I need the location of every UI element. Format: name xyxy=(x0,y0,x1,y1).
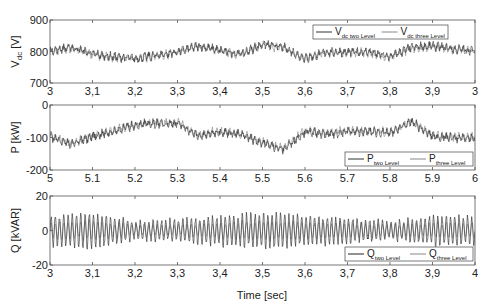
x-tick-label: 3,1 xyxy=(85,267,100,279)
legend: Ptwo LevelPthree Level xyxy=(345,152,473,166)
y-tick-label: 900 xyxy=(30,14,48,26)
y-axis-label: Vdc [V] xyxy=(9,35,24,67)
x-tick-label: 3,9 xyxy=(425,267,440,279)
y-tick-label: 0 xyxy=(42,225,48,237)
x-tick-label: 3,5 xyxy=(255,85,270,97)
figure: 33,13,23,33,43,53,63,73,83,93900800700Vd… xyxy=(0,0,489,307)
x-tick-label: 3,2 xyxy=(127,267,142,279)
x-tick-label: 3,4 xyxy=(212,85,227,97)
panel-middle: 55.15.25.35.45.55.65.75.85.960-100-200P … xyxy=(9,99,478,184)
y-tick-label: 700 xyxy=(30,77,48,89)
x-tick-label: 3,3 xyxy=(170,85,185,97)
y-tick-label: 800 xyxy=(30,46,48,58)
x-tick-label: 5.8 xyxy=(382,172,397,184)
x-tick-label: 3,2 xyxy=(127,85,142,97)
x-tick-label: 3,8 xyxy=(382,267,397,279)
x-tick-label: 5.3 xyxy=(170,172,185,184)
series-line xyxy=(50,212,475,249)
x-tick-label: 5.9 xyxy=(425,172,440,184)
x-tick-label: 3,5 xyxy=(255,267,270,279)
x-tick-label: 5.2 xyxy=(127,172,142,184)
legend: Vdc two LevelVdc three Level xyxy=(313,25,448,39)
series-group xyxy=(50,212,475,249)
x-tick-label: 3 xyxy=(472,85,478,97)
x-tick-label: 3,6 xyxy=(297,85,312,97)
series-group xyxy=(50,118,475,154)
y-tick-label: 20 xyxy=(36,190,48,202)
x-tick-label: 3,3 xyxy=(170,267,185,279)
y-tick-label: -200 xyxy=(26,164,48,176)
panel-bottom: 33,13,23,33,43,53,63,73,83,94200-20Q [kV… xyxy=(9,190,478,279)
x-tick-label: 3,9 xyxy=(425,85,440,97)
y-axis-label: P [kW] xyxy=(9,121,21,153)
x-tick-label: 5.4 xyxy=(212,172,227,184)
series-line xyxy=(50,41,475,63)
x-tick-label: 3,1 xyxy=(85,85,100,97)
series-line xyxy=(50,118,475,154)
y-tick-label: -100 xyxy=(26,132,48,144)
x-axis-label: Time [sec] xyxy=(237,289,287,301)
series-group xyxy=(50,40,475,63)
y-tick-label: 0 xyxy=(42,99,48,111)
x-tick-label: 5.5 xyxy=(255,172,270,184)
x-tick-label: 3,7 xyxy=(340,85,355,97)
y-tick-label: -20 xyxy=(32,259,48,271)
series-line xyxy=(50,118,475,152)
panel-top: 33,13,23,33,43,53,63,73,83,93900800700Vd… xyxy=(9,14,478,97)
x-tick-label: 4 xyxy=(472,267,478,279)
y-axis-label: Q [kVAR] xyxy=(9,208,21,253)
x-tick-label: 3,7 xyxy=(340,267,355,279)
x-tick-label: 5.1 xyxy=(85,172,100,184)
x-tick-label: 3,4 xyxy=(212,267,227,279)
x-tick-label: 3,8 xyxy=(382,85,397,97)
legend: Qtwo LevelQthree Level xyxy=(345,247,473,261)
x-tick-label: 6 xyxy=(472,172,478,184)
x-tick-label: 5.7 xyxy=(340,172,355,184)
x-tick-label: 3,6 xyxy=(297,267,312,279)
x-tick-label: 5.6 xyxy=(297,172,312,184)
